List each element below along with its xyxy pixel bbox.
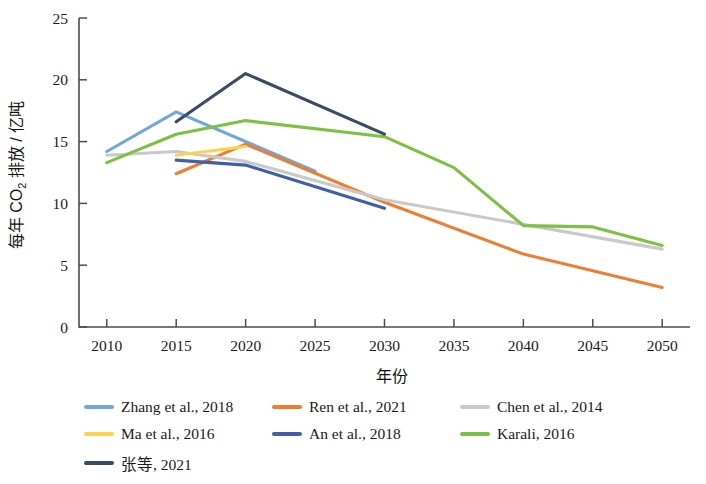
legend-grid: Zhang et al., 2018Ren et al., 2021Chen e… xyxy=(84,398,694,474)
plot-series-group xyxy=(107,74,662,288)
series-line-3 xyxy=(176,147,245,156)
y-tick-label: 15 xyxy=(53,133,69,150)
axes-group xyxy=(79,18,690,327)
x-tick-label: 2050 xyxy=(647,337,678,354)
y-tick-label: 0 xyxy=(60,319,68,336)
legend-item-0[interactable]: Zhang et al., 2018 xyxy=(84,398,272,416)
legend-color-swatch xyxy=(84,461,114,465)
legend-item-4[interactable]: An et al., 2018 xyxy=(272,425,460,443)
chart-legend: Zhang et al., 2018Ren et al., 2021Chen e… xyxy=(84,398,694,474)
series-line-4 xyxy=(176,160,384,208)
chart-figure: 0510152025201020152020202520302035204020… xyxy=(0,0,706,484)
y-axis-title: 每年 CO2 排放 / 亿吨 xyxy=(8,101,28,249)
x-tick-label: 2010 xyxy=(91,337,122,354)
legend-item-3[interactable]: Ma et al., 2016 xyxy=(84,425,272,443)
legend-label: Chen et al., 2014 xyxy=(497,398,602,416)
y-tick-label: 25 xyxy=(53,10,69,27)
y-tick-label: 10 xyxy=(53,195,69,212)
x-tick-label: 2030 xyxy=(369,337,400,354)
x-tick-label: 2020 xyxy=(230,337,261,354)
legend-label: 张等, 2021 xyxy=(121,452,192,474)
x-tick-label: 2035 xyxy=(438,337,469,354)
x-axis-title: 年份 xyxy=(376,368,408,385)
legend-label: An et al., 2018 xyxy=(309,425,401,443)
legend-color-swatch xyxy=(84,405,114,409)
legend-color-swatch xyxy=(272,405,302,409)
series-line-5 xyxy=(107,121,662,246)
legend-label: Ma et al., 2016 xyxy=(121,425,214,443)
x-tick-label: 2025 xyxy=(300,337,331,354)
legend-item-1[interactable]: Ren et al., 2021 xyxy=(272,398,460,416)
x-tick-label: 2015 xyxy=(161,337,192,354)
legend-label: Zhang et al., 2018 xyxy=(121,398,233,416)
y-tick-label: 5 xyxy=(60,257,68,274)
legend-color-swatch xyxy=(460,432,490,436)
legend-color-swatch xyxy=(460,405,490,409)
legend-item-6[interactable]: 张等, 2021 xyxy=(84,452,272,474)
x-tick-label: 2045 xyxy=(577,337,608,354)
legend-label: Ren et al., 2021 xyxy=(309,398,407,416)
legend-item-2[interactable]: Chen et al., 2014 xyxy=(460,398,648,416)
y-tick-label: 20 xyxy=(53,71,69,88)
legend-label: Karali, 2016 xyxy=(497,425,574,443)
legend-item-5[interactable]: Karali, 2016 xyxy=(460,425,648,443)
x-tick-label: 2040 xyxy=(508,337,539,354)
legend-color-swatch xyxy=(84,432,114,436)
legend-color-swatch xyxy=(272,432,302,436)
line-chart-plot: 0510152025201020152020202520302035204020… xyxy=(0,0,706,398)
axis-tick-labels: 0510152025201020152020202520302035204020… xyxy=(53,10,678,355)
